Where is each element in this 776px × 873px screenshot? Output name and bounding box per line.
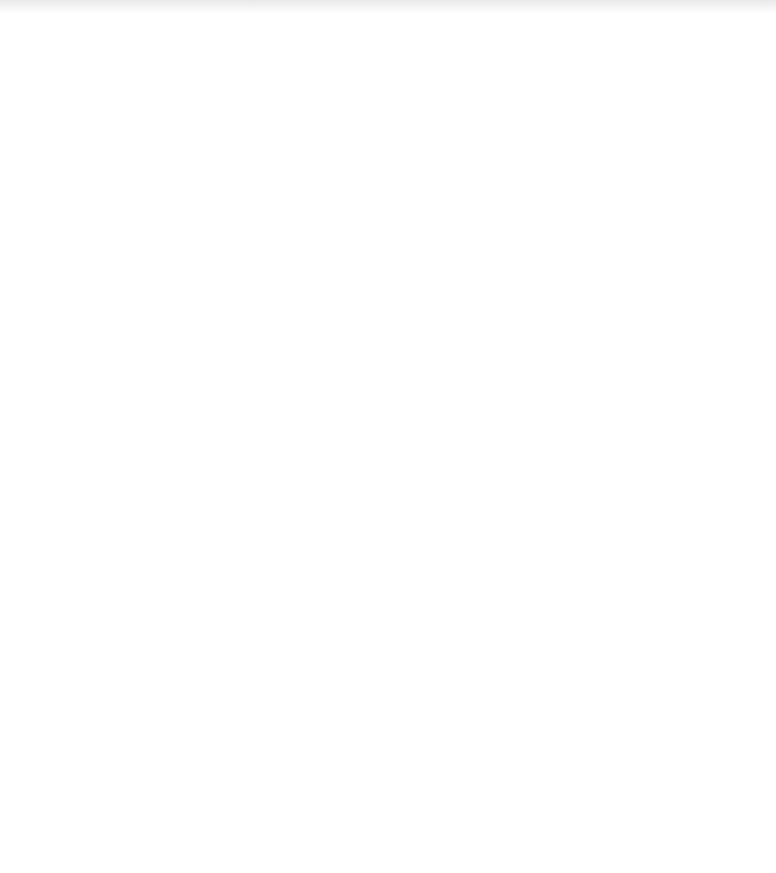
reflection-diagram — [0, 0, 776, 873]
